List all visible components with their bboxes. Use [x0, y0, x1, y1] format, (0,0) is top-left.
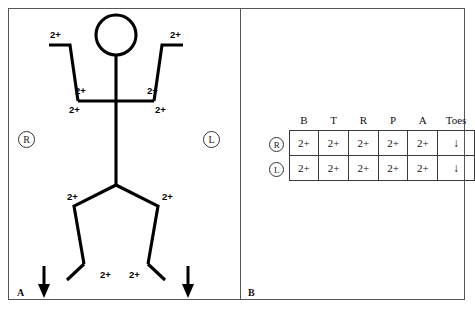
side-marker-right: R: [18, 131, 35, 148]
grade-left-patellar: 2+: [162, 192, 173, 202]
cell-left-toes: ↓: [438, 156, 475, 181]
column-header-t: T: [319, 112, 349, 131]
table-corner-cell: [268, 112, 289, 131]
cell-right-p: 2+: [378, 131, 408, 156]
cell-left-b: 2+: [289, 156, 319, 181]
table-row: L 2+ 2+ 2+ 2+ 2+ ↓: [268, 156, 475, 181]
cell-right-toes: ↓: [438, 131, 475, 156]
grade-left-brachioradialis: 2+: [170, 30, 181, 40]
row-header-right: R: [268, 131, 289, 156]
grade-right-triceps: 2+: [69, 105, 80, 115]
cell-left-a: 2+: [408, 156, 438, 181]
stick-figure-diagram: [8, 8, 240, 300]
row-marker-right: R: [269, 137, 284, 152]
left-leg-line: [116, 185, 158, 264]
grade-right-patellar: 2+: [67, 192, 78, 202]
cell-left-p: 2+: [378, 156, 408, 181]
right-foot-line: [67, 264, 84, 280]
left-foot-line: [148, 264, 165, 280]
reflex-documentation-figure: 2+ 2+ 2+ 2+ 2+ 2+ 2+ 2+ 2+ 2+ R L A B T …: [0, 0, 475, 311]
grade-left-achilles: 2+: [129, 270, 140, 280]
table-header-row: B T R P A Toes: [268, 112, 475, 131]
column-header-p: P: [378, 112, 408, 131]
column-header-toes: Toes: [438, 112, 475, 131]
grade-right-brachioradialis: 2+: [50, 30, 61, 40]
column-header-b: B: [289, 112, 319, 131]
reflex-table-container: B T R P A Toes R 2+ 2+ 2+ 2+ 2+: [268, 112, 475, 181]
reflex-table: B T R P A Toes R 2+ 2+ 2+ 2+ 2+: [268, 112, 475, 181]
cell-left-t: 2+: [319, 156, 349, 181]
cell-right-b: 2+: [289, 131, 319, 156]
side-marker-left: L: [203, 131, 220, 148]
right-plantar-arrow-icon: [38, 266, 50, 298]
column-header-a: A: [408, 112, 438, 131]
row-header-left: L: [268, 156, 289, 181]
cell-left-r: 2+: [348, 156, 378, 181]
grade-left-biceps: 2+: [147, 86, 158, 96]
cell-right-t: 2+: [319, 131, 349, 156]
cell-right-r: 2+: [348, 131, 378, 156]
column-header-r: R: [348, 112, 378, 131]
grade-right-biceps: 2+: [75, 86, 86, 96]
right-arm-line: [49, 45, 78, 101]
head-icon: [96, 15, 136, 55]
row-marker-left: L: [269, 162, 284, 177]
right-leg-line: [74, 185, 116, 264]
panel-divider: [240, 8, 241, 300]
left-arm-line: [154, 45, 183, 101]
cell-right-a: 2+: [408, 131, 438, 156]
panel-a-label: A: [17, 287, 25, 298]
table-row: R 2+ 2+ 2+ 2+ 2+ ↓: [268, 131, 475, 156]
grade-right-achilles: 2+: [100, 270, 111, 280]
grade-left-triceps: 2+: [155, 105, 166, 115]
left-plantar-arrow-icon: [182, 266, 194, 298]
panel-b-label: B: [248, 287, 255, 298]
